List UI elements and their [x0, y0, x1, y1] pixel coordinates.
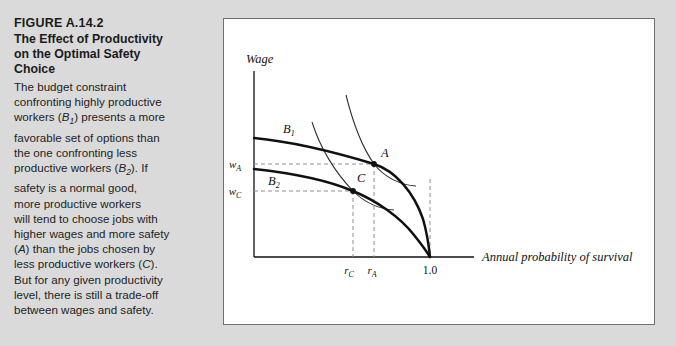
x-tick-rA-sub: A: [371, 270, 377, 279]
figure-description: The budget constraint confronting highly…: [14, 79, 210, 318]
y-tick-wA-sub: A: [235, 164, 241, 173]
point-A-label: A: [380, 146, 389, 160]
budget-constraint-B2: [254, 169, 430, 257]
figure-description-line-15: between wages and safety.: [14, 303, 154, 316]
figure-description-line-7: safety is a normal good,: [14, 181, 137, 194]
figure-title: The Effect of Productivity on the Optima…: [14, 32, 210, 78]
budget-constraint-B1: [254, 138, 430, 257]
figure-title-line-2: on the Optimal Safety: [14, 47, 140, 61]
figure-title-line-1: The Effect of Productivity: [14, 32, 163, 46]
figure-description-line-8: more productive workers: [14, 197, 141, 210]
figure-number: FIGURE A.14.2: [14, 16, 210, 31]
point-C-marker: [350, 188, 356, 194]
figure-description-line-1: The budget constraint: [14, 80, 126, 93]
figure-description-line-2: confronting highly productive: [14, 95, 162, 108]
figure-title-line-3: Choice: [14, 62, 55, 76]
point-A-marker: [371, 161, 377, 167]
figure-description-line-4: favorable set of options than: [14, 131, 160, 144]
curve-label-B2: B2: [268, 174, 280, 190]
figure-description-line-11: (A) than the jobs chosen by: [14, 242, 155, 255]
x-tick-label-rC: rC: [344, 264, 354, 279]
figure-description-line-3: workers (B1) presents a more: [14, 110, 165, 123]
figure-description-line-14: level, there is still a trade-off: [14, 288, 158, 301]
figure-description-line-10: higher wages and more safety: [14, 227, 169, 240]
x-tick-label-one: 1.0: [423, 264, 438, 276]
figure-description-line-6: productive workers (B2). If: [14, 161, 148, 174]
y-axis-label: Wage: [246, 52, 274, 66]
curve-label-B2-sub: 2: [276, 181, 280, 190]
curve-label-B1: B1: [283, 122, 295, 138]
curve-label-B1-sub: 1: [291, 129, 295, 138]
figure-description-line-12: less productive workers (C).: [14, 257, 158, 270]
y-tick-label-wA: wA: [229, 158, 241, 173]
y-tick-label-wC: wC: [229, 185, 242, 200]
chart-panel: Wage Annual probability of survival: [223, 18, 655, 325]
y-tick-wC-sub: C: [236, 191, 242, 200]
x-axis-label: Annual probability of survival: [481, 250, 633, 264]
figure-description-line-9: will tend to choose jobs with: [14, 212, 158, 225]
figure-root: FIGURE A.14.2 The Effect of Productivity…: [0, 0, 676, 346]
x-tick-label-rA: rA: [367, 264, 376, 279]
x-tick-rC-sub: C: [348, 270, 354, 279]
point-C-label: C: [357, 171, 366, 185]
figure-caption-column: FIGURE A.14.2 The Effect of Productivity…: [14, 16, 210, 317]
figure-description-line-5: the one confronting less: [14, 146, 137, 159]
figure-description-line-13: But for any given productivity: [14, 273, 163, 286]
chart-svg: Wage Annual probability of survival: [224, 19, 656, 326]
